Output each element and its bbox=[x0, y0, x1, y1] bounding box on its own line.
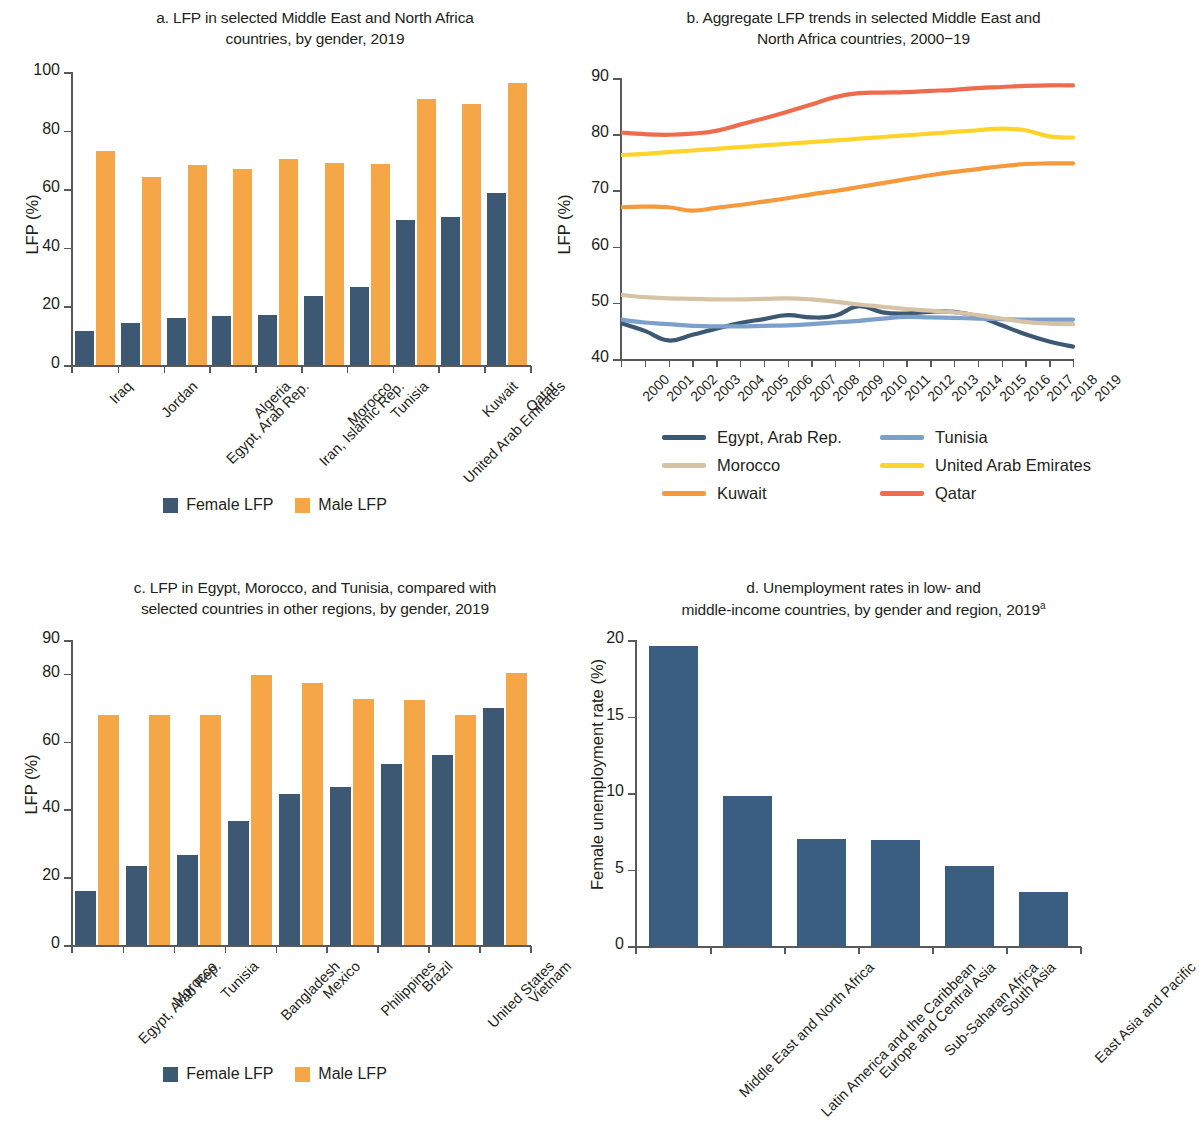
bar-female-lfp bbox=[75, 331, 94, 365]
legend-line-swatch bbox=[880, 463, 924, 468]
x-axis-tick bbox=[393, 366, 395, 373]
bar-male-lfp bbox=[506, 673, 527, 945]
y-axis-tick bbox=[64, 809, 71, 811]
y-axis-tick-label: 90 bbox=[16, 630, 60, 646]
bar-male-lfp bbox=[251, 675, 272, 945]
bar-female-lfp bbox=[381, 764, 402, 945]
x-axis-tick bbox=[716, 360, 717, 367]
x-axis-tick-label: Morocco bbox=[170, 958, 221, 1009]
x-axis-tick-label: Kuwait bbox=[479, 378, 521, 420]
legend-item: Kuwait bbox=[662, 484, 880, 503]
x-axis-tick bbox=[788, 360, 789, 367]
x-axis-tick bbox=[932, 947, 934, 954]
y-axis-tick bbox=[613, 247, 620, 249]
x-axis-tick bbox=[692, 360, 693, 367]
legend-label: Male LFP bbox=[318, 1065, 386, 1083]
x-axis-tick-label: Iraq bbox=[107, 378, 136, 407]
bar-female-lfp bbox=[396, 220, 415, 365]
y-axis-tick bbox=[64, 189, 71, 191]
x-axis-tick-label: Jordan bbox=[158, 378, 201, 421]
bar-female-lfp bbox=[228, 821, 249, 945]
bar-male-lfp bbox=[96, 151, 115, 365]
x-axis-tick bbox=[123, 946, 125, 953]
bar-male-lfp bbox=[353, 699, 374, 945]
y-axis-tick-label: 15 bbox=[588, 707, 624, 723]
x-axis-tick bbox=[326, 946, 328, 953]
x-axis-tick bbox=[530, 946, 532, 953]
legend-item: Male LFP bbox=[295, 496, 386, 514]
legend-label: Tunisia bbox=[935, 428, 988, 447]
x-axis-tick bbox=[174, 946, 176, 953]
legend-item: Qatar bbox=[880, 484, 1091, 503]
x-axis-tick bbox=[858, 947, 860, 954]
y-axis-tick bbox=[613, 359, 620, 361]
bar-male-lfp bbox=[98, 715, 119, 945]
x-axis-tick bbox=[635, 947, 637, 954]
panel-b-legend: Egypt, Arab Rep.TunisiaMoroccoUnited Ara… bbox=[662, 428, 1091, 503]
y-axis-tick-label: 40 bbox=[571, 349, 609, 365]
panel-c-legend: Female LFPMale LFP bbox=[0, 1065, 550, 1083]
y-axis-tick-label: 70 bbox=[571, 180, 609, 196]
x-axis-tick bbox=[71, 946, 73, 953]
x-axis-tick bbox=[954, 360, 955, 367]
y-axis-tick bbox=[64, 72, 71, 74]
bar-female-lfp bbox=[304, 296, 323, 365]
y-axis-tick-label: 60 bbox=[16, 179, 60, 195]
legend-item: Tunisia bbox=[880, 428, 1091, 447]
x-axis-tick bbox=[71, 366, 73, 373]
bar-unemployment bbox=[1019, 892, 1068, 946]
bar-female-lfp bbox=[167, 318, 186, 365]
y-axis-tick bbox=[628, 717, 635, 719]
x-axis-line bbox=[71, 945, 531, 947]
y-axis-tick-label: 20 bbox=[588, 630, 624, 646]
legend-swatch bbox=[163, 1067, 178, 1082]
line-series-svg bbox=[621, 76, 1077, 361]
panel-d-plot-area: 05101520Middle East and North AfricaLati… bbox=[550, 560, 1097, 1131]
bar-male-lfp bbox=[508, 83, 527, 365]
x-axis-tick bbox=[209, 366, 211, 373]
bar-female-lfp bbox=[212, 316, 231, 365]
x-axis-tick-label: East Asia and Pacific bbox=[1092, 959, 1199, 1066]
bar-female-lfp bbox=[483, 708, 504, 945]
bar-male-lfp bbox=[455, 715, 476, 945]
y-axis-tick bbox=[64, 640, 71, 642]
legend-item: Egypt, Arab Rep. bbox=[662, 428, 880, 447]
bar-female-lfp bbox=[330, 787, 351, 945]
x-axis-tick bbox=[740, 360, 741, 367]
y-axis-tick bbox=[628, 640, 635, 642]
x-axis-tick bbox=[301, 366, 303, 373]
y-axis-line bbox=[635, 640, 637, 946]
x-axis-tick bbox=[669, 360, 670, 367]
y-axis-tick bbox=[64, 945, 71, 947]
x-axis-tick-label: Tunisia bbox=[218, 958, 262, 1002]
bar-female-lfp bbox=[432, 755, 453, 945]
y-axis-tick bbox=[613, 190, 620, 192]
bar-male-lfp bbox=[233, 169, 252, 365]
x-axis-tick-label: 2019 bbox=[1091, 371, 1124, 404]
legend-line-swatch bbox=[662, 491, 706, 496]
x-axis-tick bbox=[118, 366, 120, 373]
y-axis-tick bbox=[628, 946, 635, 948]
bar-male-lfp bbox=[371, 164, 390, 365]
x-axis-tick bbox=[1006, 947, 1008, 954]
panel-a: a. LFP in selected Middle East and North… bbox=[0, 0, 550, 560]
bar-male-lfp bbox=[462, 104, 481, 365]
legend-swatch bbox=[295, 1067, 310, 1082]
x-axis-tick bbox=[484, 366, 486, 373]
legend-line-swatch bbox=[662, 463, 706, 468]
x-axis-tick bbox=[906, 360, 907, 367]
x-axis-tick bbox=[1073, 360, 1074, 367]
x-axis-tick bbox=[530, 366, 532, 373]
x-axis-tick bbox=[784, 947, 786, 954]
x-axis-tick bbox=[428, 946, 430, 953]
bar-male-lfp bbox=[404, 700, 425, 945]
panel-c: c. LFP in Egypt, Morocco, and Tunisia, c… bbox=[0, 560, 550, 1131]
x-axis-tick bbox=[164, 366, 166, 373]
legend-label: Male LFP bbox=[318, 496, 386, 514]
panel-a-plot-area: 020406080100IraqJordanEgypt, Arab Rep.Al… bbox=[0, 0, 550, 560]
bar-unemployment bbox=[649, 646, 698, 946]
legend-swatch bbox=[163, 498, 178, 513]
x-axis-tick bbox=[1080, 947, 1082, 954]
y-axis-tick bbox=[628, 793, 635, 795]
x-axis-tick bbox=[479, 946, 481, 953]
